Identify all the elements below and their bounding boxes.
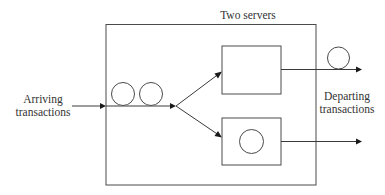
system-boundary-box — [106, 25, 316, 186]
departing-label-line2: transactions — [316, 103, 378, 116]
departing-label-line1: Departing — [316, 90, 378, 103]
departing-label: Departing transactions — [316, 90, 378, 116]
server-2-departure-arrowhead-icon — [356, 139, 362, 145]
system-title: Two servers — [196, 9, 300, 22]
in-service-transaction — [240, 130, 264, 154]
system-title-text: Two servers — [220, 9, 276, 21]
arriving-label-line2: transactions — [14, 106, 72, 119]
departed-transaction — [328, 47, 350, 69]
queued-transaction-2 — [140, 83, 163, 106]
arrival-arrowhead-icon — [100, 103, 106, 109]
server-1-departure-arrowhead-icon — [356, 67, 362, 73]
arriving-label-line1: Arriving — [14, 93, 72, 106]
arriving-label: Arriving transactions — [14, 93, 72, 119]
queued-transaction-1 — [112, 83, 135, 106]
server-1-box — [222, 46, 281, 94]
